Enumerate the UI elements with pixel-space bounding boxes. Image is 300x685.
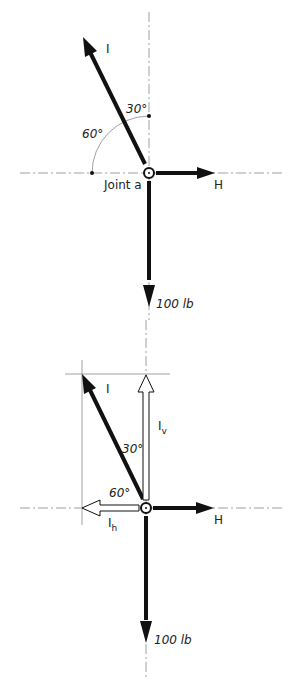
diagram-svg <box>0 0 300 685</box>
angle-arc <box>92 116 149 173</box>
load-arrowhead <box>143 285 155 307</box>
angle-30-label: 30° <box>126 103 147 115</box>
bottom-diagram <box>20 320 282 680</box>
force-H-label: H <box>214 179 223 191</box>
force-H-arrowhead-2 <box>196 502 214 514</box>
component-Ih-arrow <box>82 500 139 516</box>
Iv-main: I <box>158 419 162 433</box>
force-I-label: I <box>106 43 110 55</box>
load-label-2: 100 lb <box>154 634 192 646</box>
force-I-label-2: I <box>106 383 110 395</box>
load-label: 100 lb <box>156 298 194 310</box>
component-Ih-label: Ih <box>108 517 117 529</box>
Iv-sub: v <box>162 426 167 436</box>
angle-60-label: 60° <box>82 128 103 140</box>
angle-30-label-2: 30° <box>122 443 143 455</box>
force-H-arrowhead <box>197 167 215 179</box>
component-Iv-arrow <box>138 375 154 500</box>
load-arrowhead-2 <box>140 621 152 643</box>
arc-start-dot <box>90 171 94 175</box>
top-diagram <box>20 12 282 320</box>
force-H-label-2: H <box>214 514 223 526</box>
angle-60-label-2: 60° <box>109 487 130 499</box>
Ih-main: I <box>108 516 112 530</box>
force-I-arrowhead <box>83 37 97 57</box>
arc-end-dot <box>147 114 151 118</box>
force-diagram-canvas: I 30° 60° Joint a H 100 lb I Iv 30° 60° … <box>0 0 300 685</box>
component-Iv-label: Iv <box>158 420 167 432</box>
Ih-sub: h <box>112 523 118 533</box>
force-I-arrowhead-2 <box>82 374 96 394</box>
joint-label: Joint a <box>104 179 142 191</box>
